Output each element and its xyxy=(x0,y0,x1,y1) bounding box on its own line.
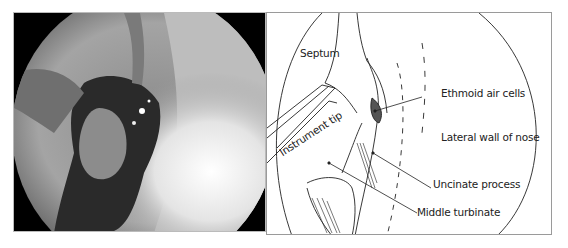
label-uncinate-process: Uncinate process xyxy=(433,178,520,190)
label-septum: Septum xyxy=(300,47,340,59)
label-ethmoid-air-cells: Ethmoid air cells xyxy=(441,87,525,99)
circle-outline-right xyxy=(479,13,536,235)
label-middle-turbinate: Middle turbinate xyxy=(417,206,500,218)
leader-ethmoid xyxy=(375,97,422,111)
endoscopic-photo-image xyxy=(14,13,266,232)
endoscopic-photograph xyxy=(13,12,266,232)
leader-uncinate xyxy=(373,153,431,188)
label-lateral-wall-of-nose: Lateral wall of nose xyxy=(441,131,540,143)
anatomical-line-drawing: Septum Instrument tip Ethmoid air cells … xyxy=(266,12,552,235)
leader-middle-turbinate xyxy=(329,163,417,213)
